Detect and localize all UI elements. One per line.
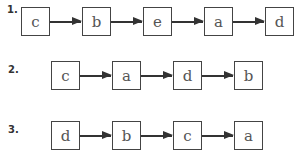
sequence-box: a	[234, 121, 263, 150]
arrow-icon	[202, 135, 233, 137]
sequence-box: b	[112, 121, 141, 150]
sequence-box: a	[204, 7, 233, 36]
arrow-icon	[233, 21, 264, 23]
arrow-icon	[50, 21, 81, 23]
sequence-box: c	[173, 121, 202, 150]
sequence-label: 2.	[8, 64, 19, 75]
arrow-icon	[80, 135, 111, 137]
sequence-box: e	[143, 7, 172, 36]
sequence-box: b	[234, 61, 263, 90]
sequence-box: d	[51, 121, 80, 150]
arrow-icon	[202, 75, 233, 77]
sequence-box: c	[51, 61, 80, 90]
arrow-icon	[141, 135, 172, 137]
sequence-box: d	[265, 7, 294, 36]
arrow-icon	[172, 21, 203, 23]
sequence-box: d	[173, 61, 202, 90]
sequence-label: 1.	[7, 4, 18, 15]
sequence-box: c	[21, 7, 50, 36]
arrow-icon	[141, 75, 172, 77]
sequence-label: 3.	[8, 124, 19, 135]
sequence-box: a	[112, 61, 141, 90]
sequence-box: b	[82, 7, 111, 36]
arrow-icon	[80, 75, 111, 77]
arrow-icon	[111, 21, 142, 23]
